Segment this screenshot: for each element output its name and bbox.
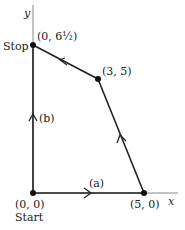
x-axis-label: x xyxy=(168,196,174,207)
point-stop xyxy=(30,42,36,48)
start-coord-label: (0, 0) xyxy=(15,199,45,210)
stop-label: Stop xyxy=(3,41,29,52)
stop-coord-label: (0, 6½) xyxy=(37,31,77,42)
path-segment-3 xyxy=(33,45,98,79)
point-start xyxy=(30,190,36,196)
start-label: Start xyxy=(15,212,43,223)
y-axis-label: y xyxy=(24,8,30,19)
point-3-5 xyxy=(95,76,101,82)
path-a-label: (a) xyxy=(89,178,104,189)
path-b-label: (b) xyxy=(39,113,55,124)
point-5-0 xyxy=(141,190,147,196)
point-3-5-label: (3, 5) xyxy=(102,66,132,77)
path-diagram xyxy=(0,0,185,230)
point-5-0-label: (5, 0) xyxy=(130,199,160,210)
